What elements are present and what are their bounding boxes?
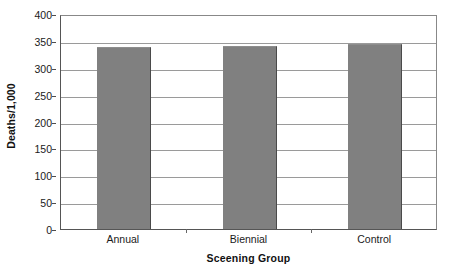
bar <box>97 47 151 229</box>
y-axis-tick-label: 350 <box>34 37 52 48</box>
bar-chart: Deaths/1,000 050100150200250300350400 An… <box>0 0 451 274</box>
y-axis-tick-mark <box>52 203 56 204</box>
plot-area <box>60 15 437 230</box>
y-axis-tick-label: 100 <box>34 171 52 182</box>
y-axis-tick-mark <box>52 15 56 16</box>
x-axis-tick-label: Biennial <box>230 233 267 245</box>
y-axis-title-text: Deaths/1,000 <box>5 83 17 148</box>
y-axis-tick-mark <box>52 69 56 70</box>
bar <box>223 46 277 229</box>
x-axis-tick-label: Annual <box>106 233 139 245</box>
x-axis-tick-labels: AnnualBiennialControl <box>60 233 437 251</box>
y-axis-tick-label: 50 <box>40 198 52 209</box>
bar <box>348 44 402 229</box>
y-axis-tick-mark <box>52 123 56 124</box>
y-axis-tick-mark <box>52 230 56 231</box>
y-axis-tick-labels: 050100150200250300350400 <box>22 0 56 240</box>
y-axis-tick-label: 200 <box>34 117 52 128</box>
y-axis-tick-label: 150 <box>34 144 52 155</box>
y-axis-tick-label: 250 <box>34 90 52 101</box>
y-axis-tick-mark <box>52 42 56 43</box>
y-axis-title: Deaths/1,000 <box>0 0 22 232</box>
y-axis-tick-mark <box>52 96 56 97</box>
bars-group <box>61 16 436 229</box>
y-axis-tick-label: 400 <box>34 10 52 21</box>
x-axis-title: Sceening Group <box>60 252 437 264</box>
y-axis-tick-mark <box>52 149 56 150</box>
y-axis-tick-mark <box>52 176 56 177</box>
x-axis-tick-label: Control <box>357 233 391 245</box>
y-axis-tick-label: 300 <box>34 64 52 75</box>
